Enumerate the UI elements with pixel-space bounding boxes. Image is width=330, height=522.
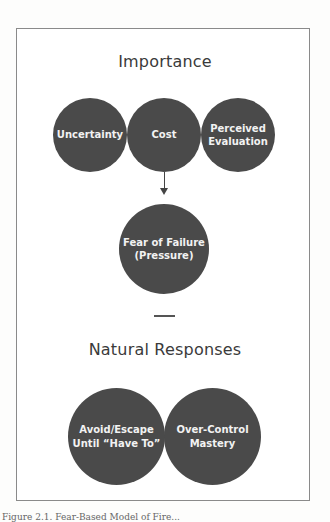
- fear-of-failure-circle: Fear of Failure (Pressure): [119, 204, 209, 294]
- section-divider: [154, 315, 175, 317]
- factor-cost-circle: Cost: [127, 98, 201, 172]
- factor-label: Perceived Evaluation: [208, 122, 268, 149]
- arrow-head-icon: [160, 188, 168, 195]
- factor-label: Cost: [152, 128, 177, 142]
- factor-label: Uncertainty: [57, 128, 123, 142]
- outcome-label: Fear of Failure (Pressure): [123, 236, 205, 263]
- importance-heading: Importance: [0, 52, 330, 71]
- response-avoid-escape-circle: Avoid/Escape Until “Have To”: [68, 388, 165, 485]
- response-label: Over-Control Mastery: [176, 423, 248, 450]
- down-arrow-icon: [164, 172, 165, 189]
- factor-perceived-evaluation-circle: Perceived Evaluation: [201, 98, 275, 172]
- figure-caption: Figure 2.1. Fear-Based Model of Fire...: [0, 512, 330, 522]
- response-label: Avoid/Escape Until “Have To”: [73, 423, 161, 450]
- factor-uncertainty-circle: Uncertainty: [53, 98, 127, 172]
- response-over-control-circle: Over-Control Mastery: [164, 388, 261, 485]
- natural-responses-heading: Natural Responses: [0, 340, 330, 359]
